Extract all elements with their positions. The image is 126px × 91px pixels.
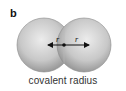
- diagram-caption: covalent radius: [0, 75, 126, 86]
- bond-center-dot: [62, 43, 66, 47]
